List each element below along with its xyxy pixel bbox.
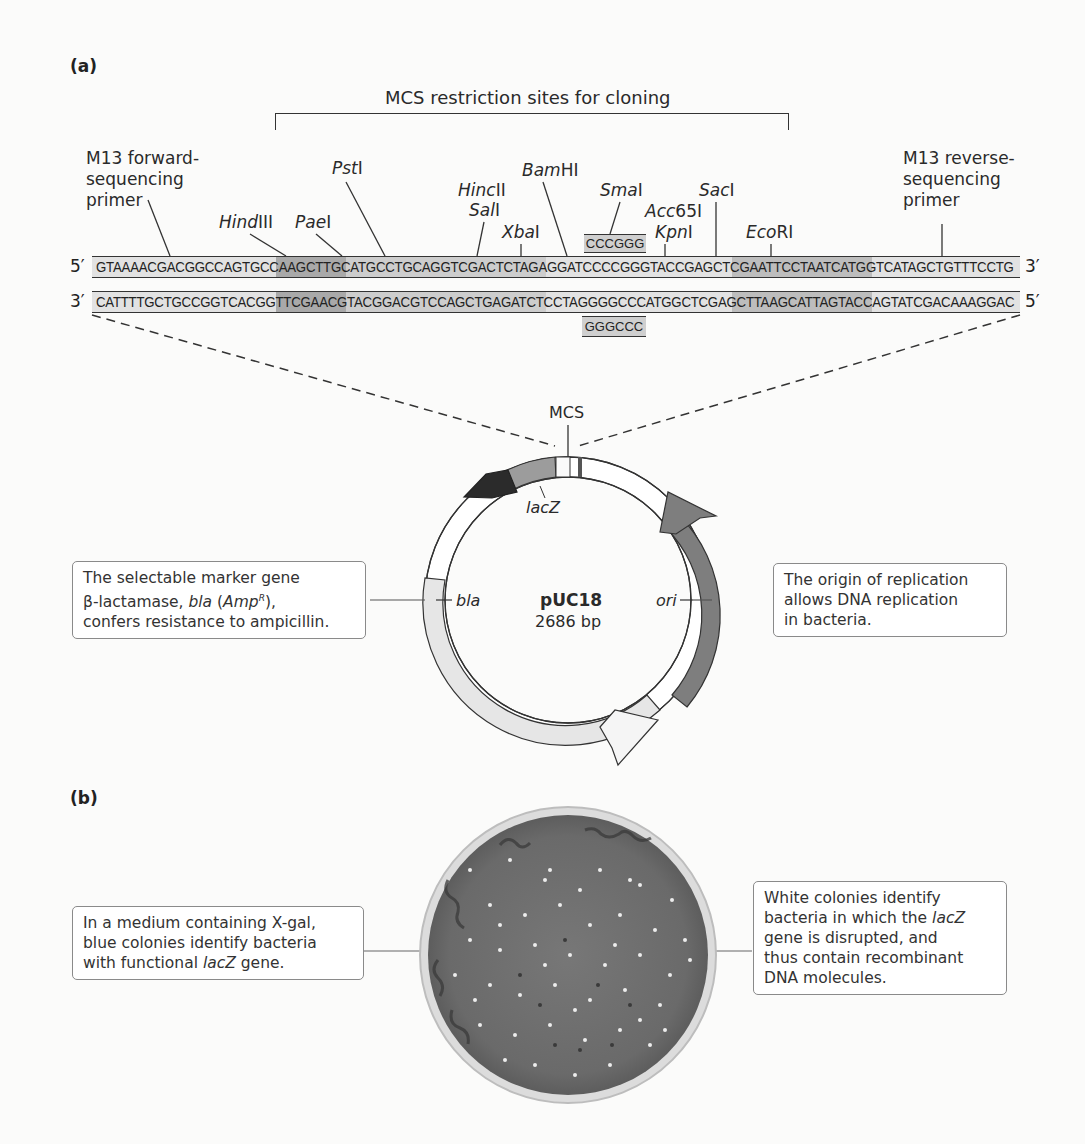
blue-colonies-callout: In a medium containing X-gal, blue colon… — [72, 906, 364, 980]
white-colonies-callout: White colonies identify bacteria in whic… — [753, 881, 1007, 995]
